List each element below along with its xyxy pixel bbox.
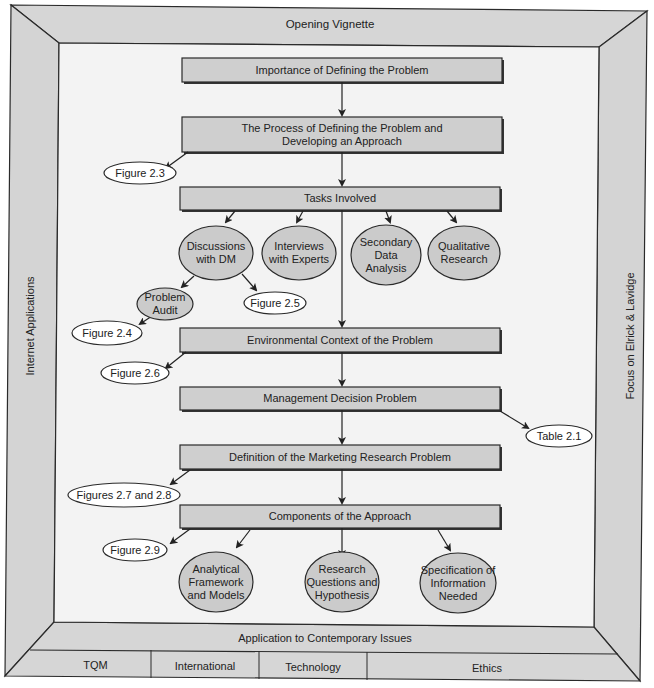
box-tasks: Tasks Involved bbox=[180, 187, 500, 210]
box-definition: Definition of the Marketing Research Pro… bbox=[180, 445, 500, 469]
ref-figure-2-4: Figure 2.4 bbox=[72, 321, 142, 345]
oval-discussions: Discussions with DM bbox=[179, 226, 253, 280]
tab-tqm: TQM bbox=[40, 654, 151, 676]
frame-top-label: Opening Vignette bbox=[230, 14, 430, 34]
ref-figure-2-6: Figure 2.6 bbox=[101, 362, 169, 384]
frame-right-label: Focus on Elrick & Lavidge bbox=[624, 266, 636, 406]
oval-questions: Research Questions and Hypothesis bbox=[305, 552, 379, 612]
ref-figures-2-7-2-8: Figures 2.7 and 2.8 bbox=[68, 483, 180, 507]
frame-left-label: Internet Applications bbox=[24, 266, 36, 386]
frame-right-panel bbox=[594, 11, 647, 681]
oval-specification: Specification of Information Needed bbox=[418, 553, 498, 613]
box-management: Management Decision Problem bbox=[180, 387, 500, 410]
chapter-overview-diagram: Opening Vignette Internet Applications F… bbox=[0, 0, 654, 688]
oval-interviews: Interviews with Experts bbox=[262, 226, 336, 280]
ref-figure-2-5: Figure 2.5 bbox=[244, 292, 306, 314]
box-environmental: Environmental Context of the Problem bbox=[180, 328, 500, 352]
oval-qualitative: Qualitative Research bbox=[428, 226, 500, 280]
oval-secondary: Secondary Data Analysis bbox=[351, 225, 421, 285]
oval-analytical: Analytical Framework and Models bbox=[179, 552, 253, 612]
ref-figure-2-9: Figure 2.9 bbox=[103, 539, 167, 561]
box-process: The Process of Defining the Problem and … bbox=[182, 117, 502, 152]
ref-figure-2-3: Figure 2.3 bbox=[104, 162, 176, 184]
tab-international: International bbox=[151, 655, 259, 677]
oval-audit: Problem Audit bbox=[137, 288, 193, 320]
tab-technology: Technology bbox=[259, 656, 367, 678]
frame-bottom-label: Application to Contemporary Issues bbox=[200, 630, 450, 646]
box-importance: Importance of Defining the Problem bbox=[182, 58, 502, 82]
box-components: Components of the Approach bbox=[180, 505, 500, 528]
ref-table-2-1: Table 2.1 bbox=[526, 425, 592, 447]
tab-ethics: Ethics bbox=[367, 657, 607, 679]
